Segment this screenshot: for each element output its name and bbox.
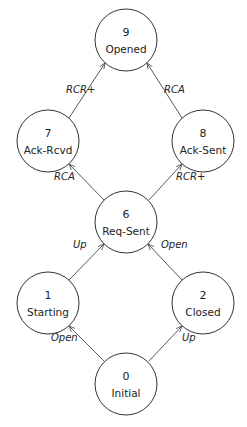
state-node-1: 1 Starting — [17, 272, 79, 334]
state-node-6: 6 Req-Sent — [95, 191, 157, 253]
edge-label-6-7: RCA — [54, 171, 75, 182]
state-node-8: 8 Ack-Sent — [172, 110, 234, 172]
edge-label-0-2: Up — [182, 332, 196, 343]
state-number: 6 — [123, 208, 130, 221]
edge-6-to-8 — [149, 164, 182, 200]
state-node-9: 9 Opened — [95, 9, 157, 71]
edge-label-6-8: RCR+ — [176, 171, 205, 182]
state-node-0: 0 Initial — [95, 353, 157, 415]
state-number: 8 — [200, 127, 207, 140]
state-diagram: RCR+ RCA RCA RCR+ Up Open Open Up 9 Open… — [0, 0, 247, 427]
edge-6-to-7 — [69, 164, 104, 200]
state-label: Opened — [105, 43, 146, 55]
state-number: 9 — [123, 26, 130, 39]
state-number: 1 — [45, 289, 52, 302]
edge-label-8-9: RCA — [164, 84, 185, 95]
state-label: Ack-Sent — [180, 144, 227, 156]
state-number: 0 — [123, 370, 130, 383]
state-label: Ack-Rcvd — [24, 144, 73, 156]
edge-label-1-6: Up — [73, 239, 87, 250]
state-label: Initial — [111, 387, 140, 399]
edge-label-7-9: RCR+ — [66, 84, 95, 95]
state-number: 7 — [45, 127, 52, 140]
state-label: Closed — [185, 306, 220, 318]
state-number: 2 — [200, 289, 207, 302]
edge-0-to-2 — [149, 326, 182, 361]
state-label: Req-Sent — [102, 225, 150, 237]
state-node-2: 2 Closed — [172, 272, 234, 334]
state-node-7: 7 Ack-Rcvd — [17, 110, 79, 172]
edge-label-2-6: Open — [161, 239, 188, 250]
state-label: Starting — [27, 306, 69, 318]
